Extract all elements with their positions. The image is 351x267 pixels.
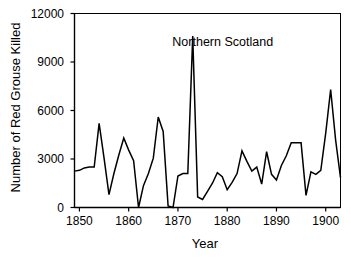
x-tick-label: 1880 — [204, 215, 250, 227]
y-tick-label: 0 — [20, 202, 64, 214]
x-tick-label: 1850 — [56, 215, 102, 227]
y-tick-label: 12000 — [20, 8, 64, 20]
plot-area: 030006000900012000 185018601870188018901… — [0, 0, 351, 267]
x-tick-label: 1860 — [106, 215, 152, 227]
y-tick-label: 3000 — [20, 153, 64, 165]
y-tick-label: 6000 — [20, 105, 64, 117]
x-axis-label: Year — [60, 236, 350, 251]
y-tick-label: 9000 — [20, 56, 64, 68]
x-tick-label: 1900 — [303, 215, 349, 227]
chart-annotation: Northern Scotland — [172, 35, 273, 49]
x-tick-label: 1890 — [253, 215, 299, 227]
chart-figure: Number of Red Grouse Killed 030006000900… — [0, 0, 351, 267]
x-tick-label: 1870 — [155, 215, 201, 227]
